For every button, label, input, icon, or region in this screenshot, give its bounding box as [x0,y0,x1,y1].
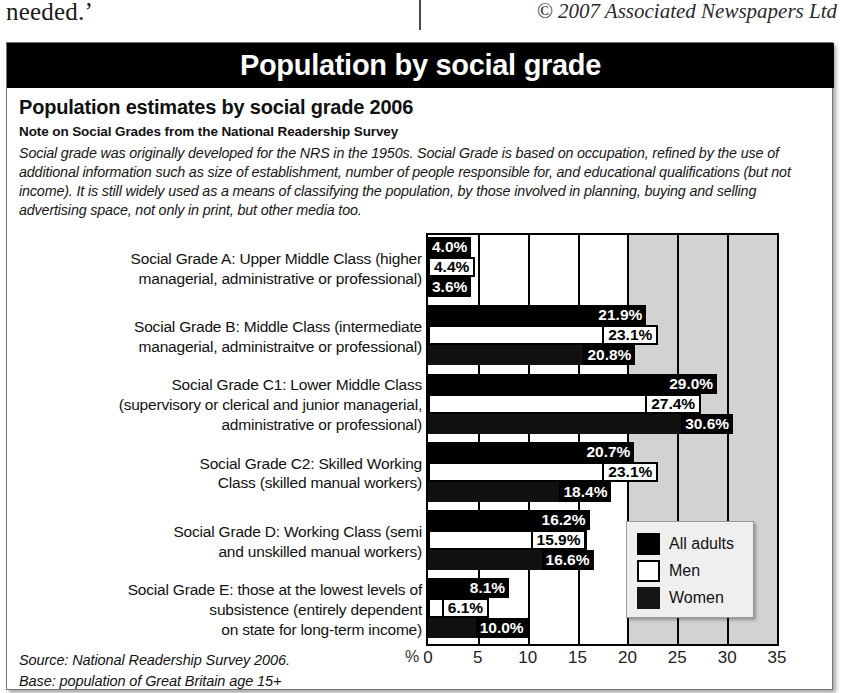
gridline [578,235,580,644]
category-label-line: (supervisory or clerical and junior mana… [67,395,422,415]
category-label-column: Social Grade A: Upper Middle Class (high… [62,233,422,646]
category-label: Social Grade D: Working Class (semiand u… [67,522,422,562]
newspaper-body-text: needed.’ [6,0,93,26]
bar-value-label: 27.4% [645,394,701,414]
bar-value-label: 20.7% [582,442,634,462]
category-label-line: on state for long-term income) [67,620,422,640]
axis-tick-label: 25 [668,648,687,668]
category-label-line: Social Grade E: those at the lowest leve… [67,580,422,600]
bar-value-label: 23.1% [602,462,658,482]
category-label-line: subsistence (entirely dependent [67,600,422,620]
axis-tick-label: 30 [718,648,737,668]
legend-item: All adults [637,531,734,556]
category-label-line: administrative or professional) [67,415,422,435]
axis-tick-label: 35 [768,648,787,668]
bar-value-label: 18.4% [559,482,611,502]
base-line: Base: population of Great Britain age 15… [19,671,290,692]
bar-value-label: 10.0% [476,618,528,638]
category-label-line: and unskilled manual workers) [67,542,422,562]
bar-value-label: 4.4% [428,257,475,277]
legend-label: Women [669,589,724,607]
legend-label: All adults [669,535,734,553]
axis-tick-label: 0 [423,648,432,668]
chart-legend: All adultsMenWomen [626,521,754,618]
category-label: Social Grade E: those at the lowest leve… [67,580,422,639]
infographic-panel: Population by social grade Population es… [6,42,833,690]
axis-unit-symbol: % [405,648,419,666]
source-line: Source: National Readership Survey 2006. [19,650,290,671]
bar-value-label: 20.8% [583,345,635,365]
newspaper-strip: needed.’ © 2007 Associated Newspapers Lt… [0,0,845,40]
legend-item: Men [637,558,700,583]
bar-value-label: 6.1% [442,598,489,618]
category-label-line: Social Grade A: Upper Middle Class (high… [67,249,422,269]
category-label-line: managerial, administrative or profession… [67,269,422,289]
panel-title: Population by social grade [240,49,601,82]
panel-body: Population estimates by social grade 200… [7,88,834,690]
category-label-line: Class (skilled manual workers) [67,473,422,493]
bar-value-label: 15.9% [531,530,587,550]
bar-value-label: 29.0% [665,374,717,394]
legend-label: Men [669,562,700,580]
axis-tick-label: 10 [518,648,537,668]
bar-value-label: 21.9% [594,305,646,325]
bar-value-label: 8.1% [466,578,509,598]
bar-value-label: 16.2% [538,510,590,530]
bar-value-label: 23.1% [602,325,658,345]
legend-swatch-all-adults [637,533,660,555]
axis-tick-label: 20 [618,648,637,668]
category-label-line: Social Grade C1: Lower Middle Class [67,375,422,395]
axis-tick-label: 15 [568,648,587,668]
legend-swatch-men [637,560,660,582]
bar-value-label: 30.6% [681,414,733,434]
x-axis-ticks: 05101520253035 [426,648,786,672]
legend-item: Women [637,585,724,610]
category-label: Social Grade B: Middle Class (intermedia… [67,317,422,357]
category-label-line: Social Grade B: Middle Class (intermedia… [67,317,422,337]
legend-swatch-women [637,587,660,609]
bar-value-label: 16.6% [542,550,594,570]
category-label: Social Grade C2: Skilled WorkingClass (s… [67,454,422,494]
chart-plot-wrapper: Social Grade A: Upper Middle Class (high… [7,88,834,690]
chart-footer: Source: National Readership Survey 2006.… [19,650,290,692]
bar-value-label: 3.6% [428,277,471,297]
copyright-notice: © 2007 Associated Newspapers Ltd [537,0,837,24]
panel-title-bar: Population by social grade [7,43,834,88]
category-label: Social Grade A: Upper Middle Class (high… [67,249,422,289]
gridline [528,235,530,644]
axis-tick-label: 5 [473,648,482,668]
category-label-line: Social Grade C2: Skilled Working [67,454,422,474]
category-label-line: managerial, administraitve or profession… [67,337,422,357]
column-divider [419,0,421,30]
category-label-line: Social Grade D: Working Class (semi [67,522,422,542]
bar-value-label: 4.0% [428,237,471,257]
category-label: Social Grade C1: Lower Middle Class(supe… [67,375,422,434]
